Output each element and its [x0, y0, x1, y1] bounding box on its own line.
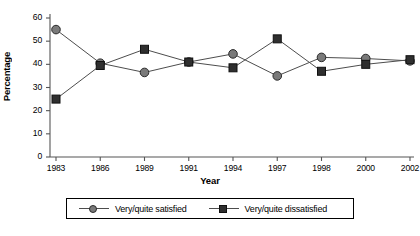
y-tick-label: 60: [24, 12, 42, 22]
legend-item-dissatisfied[interactable]: Very/quite dissatisfied: [209, 199, 327, 218]
y-tick-label: 0: [24, 151, 42, 161]
x-tick-label: 1998: [301, 163, 343, 173]
x-tick-label: 1983: [35, 163, 77, 173]
legend-label-dissatisfied: Very/quite dissatisfied: [245, 204, 327, 214]
x-axis-title: Year: [0, 175, 420, 186]
chart-legend: Very/quite satisfied Very/quite dissatis…: [66, 198, 354, 219]
x-tick-label: 1986: [79, 163, 121, 173]
x-tick-label: 2000: [345, 163, 387, 173]
y-tick-label: 30: [24, 82, 42, 92]
chart-container: Percentage 0102030405060 198319861989199…: [0, 0, 420, 236]
y-tick-label: 40: [24, 58, 42, 68]
y-tick-label: 50: [24, 35, 42, 45]
x-tick-label: 2002: [389, 163, 420, 173]
square-marker-icon: [209, 203, 239, 215]
x-tick-label: 1989: [124, 163, 166, 173]
y-tick-label: 20: [24, 105, 42, 115]
x-tick-label: 1997: [256, 163, 298, 173]
circle-marker-icon: [79, 203, 109, 215]
legend-item-satisfied[interactable]: Very/quite satisfied: [79, 199, 187, 218]
legend-label-satisfied: Very/quite satisfied: [115, 204, 187, 214]
y-tick-label: 10: [24, 128, 42, 138]
x-tick-label: 1991: [168, 163, 210, 173]
x-tick-label: 1994: [212, 163, 254, 173]
